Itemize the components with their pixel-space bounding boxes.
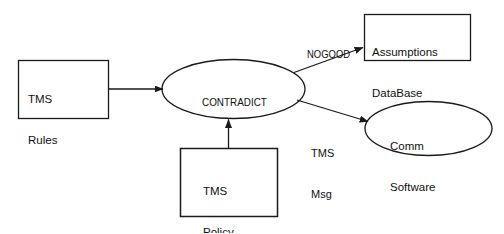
node-comm-software-line1: Comm bbox=[390, 140, 435, 154]
edge-label-tms-msg-line1: TMS bbox=[311, 147, 334, 161]
edge-label-tms-msg-line2: Msg bbox=[311, 188, 334, 202]
edge-label-nogood: NOGOOD bbox=[295, 34, 357, 75]
edge-label-nogood-text: NOGOOD bbox=[307, 48, 350, 62]
node-tms-rules-line2: Rules bbox=[28, 134, 57, 148]
node-tms-policy-line1: TMS bbox=[203, 185, 234, 199]
node-contradict-line1: CONTRADICT bbox=[202, 96, 267, 110]
diagram-canvas: TMS Rules CONTRADICT TMS Policy Assumpti… bbox=[0, 0, 504, 233]
edge-label-tms-msg: TMS Msg bbox=[311, 120, 334, 228]
node-tms-policy-line2: Policy bbox=[203, 226, 234, 234]
node-comm-software-label: Comm Software bbox=[390, 113, 435, 221]
node-assumptions-database-line2: DataBase bbox=[372, 87, 438, 101]
node-assumptions-database-line1: Assumptions bbox=[372, 46, 438, 60]
node-tms-rules-label: TMS Rules bbox=[28, 66, 57, 174]
edge-contradict-to-comm bbox=[297, 100, 368, 122]
node-tms-rules-line1: TMS bbox=[28, 93, 57, 107]
node-assumptions-database-label: Assumptions DataBase bbox=[372, 19, 438, 127]
node-tms-policy-label: TMS Policy bbox=[203, 158, 234, 233]
node-comm-software-line2: Software bbox=[390, 181, 435, 195]
node-contradict-label: CONTRADICT bbox=[183, 82, 284, 123]
